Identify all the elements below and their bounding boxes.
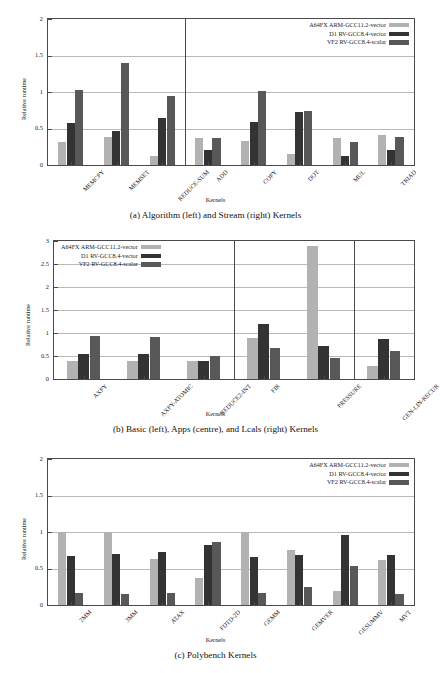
bar bbox=[318, 346, 329, 379]
x-tick-mark bbox=[162, 602, 163, 605]
bar bbox=[258, 324, 269, 379]
y-tick-mark bbox=[54, 379, 58, 380]
x-axis-title-a: Kernels bbox=[0, 196, 431, 203]
legend-label: VF2 RV-GCC8.4-scalar bbox=[327, 38, 386, 47]
legend-item: D1 RV-GCC8.4-vector bbox=[309, 30, 409, 39]
chart-legend-b: A64FX ARM-GCC11.2-vectorD1 RV-GCC8.4-vec… bbox=[61, 243, 161, 269]
bar bbox=[158, 552, 166, 605]
bar bbox=[212, 542, 220, 605]
bar bbox=[304, 587, 312, 605]
y-tick-label: 0.5 bbox=[27, 353, 49, 359]
x-tick-mark bbox=[204, 376, 205, 379]
bar bbox=[304, 111, 312, 165]
bar bbox=[158, 118, 166, 165]
bar bbox=[341, 535, 349, 605]
bar bbox=[104, 137, 112, 165]
x-tick-label: GEMVER bbox=[310, 609, 333, 632]
bar bbox=[150, 559, 158, 605]
bar bbox=[212, 138, 220, 165]
bar bbox=[90, 336, 101, 379]
chart-legend-c: A64FX ARM-GCC11.2-vectorD1 RV-GCC8.4-vec… bbox=[309, 461, 409, 487]
bar bbox=[195, 138, 203, 165]
bar bbox=[295, 112, 303, 165]
x-tick-label: ATAX bbox=[170, 609, 186, 625]
legend-label: VF2 RV-GCC8.4-scalar bbox=[327, 478, 386, 487]
y-tick-label: 1.5 bbox=[21, 52, 43, 58]
bar bbox=[112, 131, 120, 165]
y-tick-label: 0.5 bbox=[21, 125, 43, 131]
group-divider bbox=[185, 19, 186, 165]
x-tick-mark bbox=[345, 162, 346, 165]
legend-swatch bbox=[389, 480, 409, 484]
legend-label: D1 RV-GCC8.4-vector bbox=[329, 30, 386, 39]
y-tick-label: 1 bbox=[27, 330, 49, 336]
bar bbox=[247, 338, 258, 379]
bar bbox=[204, 545, 212, 605]
y-tick-mark bbox=[48, 165, 52, 166]
bar bbox=[333, 138, 341, 165]
y-tick-mark bbox=[48, 56, 52, 57]
bar bbox=[270, 348, 281, 379]
legend-item: VF2 RV-GCC8.4-scalar bbox=[309, 478, 409, 487]
x-tick-label: COPY bbox=[262, 169, 278, 185]
x-tick-mark bbox=[264, 376, 265, 379]
x-tick-mark bbox=[324, 376, 325, 379]
bar bbox=[127, 361, 138, 379]
bar bbox=[58, 532, 66, 605]
legend-item: A64FX ARM-GCC11.2-vector bbox=[309, 461, 409, 470]
bar bbox=[121, 63, 129, 165]
y-tick-mark bbox=[48, 19, 52, 20]
x-tick-label: DOT bbox=[306, 169, 320, 183]
y-tick-mark bbox=[48, 532, 52, 533]
legend-item: A64FX ARM-GCC11.2-vector bbox=[61, 243, 161, 252]
y-tick-mark bbox=[48, 605, 52, 606]
x-tick-mark bbox=[300, 162, 301, 165]
x-tick-mark bbox=[300, 602, 301, 605]
y-tick-label: 0.5 bbox=[21, 565, 43, 571]
y-tick-mark bbox=[54, 264, 58, 265]
bar bbox=[150, 156, 158, 165]
legend-swatch bbox=[141, 245, 161, 249]
x-tick-label: ADD bbox=[215, 169, 229, 183]
bar bbox=[187, 361, 198, 379]
figure-caption-c: (c) Polybench Kernels bbox=[0, 650, 431, 660]
y-tick-mark bbox=[48, 496, 52, 497]
legend-label: VF2 RV-GCC8.4-scalar bbox=[79, 260, 138, 269]
y-tick-label: 2 bbox=[21, 456, 43, 462]
bar bbox=[258, 593, 266, 605]
bar bbox=[287, 154, 295, 165]
y-tick-label: 3 bbox=[27, 238, 49, 244]
x-tick-mark bbox=[71, 162, 72, 165]
figure-caption-b: (b) Basic (left), Apps (centre), and Lca… bbox=[0, 424, 431, 434]
x-tick-mark bbox=[391, 602, 392, 605]
bar bbox=[395, 137, 403, 165]
figure-a: Relative runtime Kernels 00.511.52MEMCPY… bbox=[0, 0, 431, 228]
bar bbox=[295, 555, 303, 605]
x-tick-mark bbox=[84, 376, 85, 379]
y-tick-label: 1 bbox=[21, 529, 43, 535]
bar bbox=[67, 123, 75, 165]
x-tick-mark bbox=[208, 602, 209, 605]
x-tick-mark bbox=[254, 602, 255, 605]
legend-label: A64FX ARM-GCC11.2-vector bbox=[61, 243, 138, 252]
y-tick-label: 0 bbox=[21, 602, 43, 608]
y-tick-mark bbox=[48, 92, 52, 93]
x-axis-title-b: Kernels bbox=[0, 410, 431, 417]
bar bbox=[395, 594, 403, 605]
x-tick-mark bbox=[345, 602, 346, 605]
x-tick-label: PRESSURE bbox=[336, 383, 362, 409]
bar bbox=[241, 141, 249, 165]
bar bbox=[210, 356, 221, 379]
y-tick-mark bbox=[54, 333, 58, 334]
bar bbox=[167, 96, 175, 165]
legend-item: VF2 RV-GCC8.4-scalar bbox=[61, 260, 161, 269]
y-axis-label-c: Relative runtime bbox=[20, 518, 27, 560]
y-tick-label: 1.5 bbox=[27, 307, 49, 313]
x-tick-mark bbox=[391, 162, 392, 165]
y-tick-label: 1 bbox=[21, 89, 43, 95]
x-tick-mark bbox=[71, 602, 72, 605]
y-tick-label: 0 bbox=[27, 376, 49, 382]
y-tick-mark bbox=[54, 241, 58, 242]
bar bbox=[330, 358, 341, 379]
bar bbox=[112, 554, 120, 605]
